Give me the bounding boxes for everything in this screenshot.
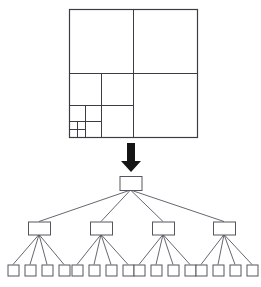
tree-node-level-2-14[interactable] bbox=[230, 265, 241, 276]
tree-node-level-2-3[interactable] bbox=[59, 265, 70, 276]
tree-node-level-2-13[interactable] bbox=[213, 265, 224, 276]
tree-node-level-2-8[interactable] bbox=[134, 265, 145, 276]
quad-cell-q-sw-sw-sw-sw bbox=[70, 130, 78, 138]
tree-edge-level-1-to-level-2-1 bbox=[30, 235, 39, 265]
tree-edge-level-0-to-level-1-0 bbox=[39, 190, 131, 222]
tree-edge-level-1-to-level-2-6 bbox=[101, 235, 111, 265]
tree-node-level-2-15[interactable] bbox=[247, 265, 258, 276]
tree-node-level-0-0[interactable] bbox=[120, 177, 142, 191]
tree-node-level-2-10[interactable] bbox=[168, 265, 179, 276]
tree-node-level-2-0[interactable] bbox=[8, 265, 19, 276]
tree-edge-level-1-to-level-2-0 bbox=[13, 235, 39, 265]
tree-node-level-2-5[interactable] bbox=[89, 265, 100, 276]
quad-cell-q-sw-se bbox=[102, 106, 134, 138]
quad-cell-q-nw bbox=[70, 10, 134, 74]
arrow-glyph bbox=[121, 143, 141, 172]
quad-cell-q-sw-sw-sw-se bbox=[78, 130, 86, 138]
quad-cell-q-sw-nw bbox=[70, 74, 102, 106]
tree-edge-level-1-to-level-2-7 bbox=[101, 235, 128, 265]
tree-node-level-1-2[interactable] bbox=[153, 222, 175, 235]
quadtree-figure bbox=[0, 0, 261, 287]
quad-cell-q-sw-sw-se bbox=[86, 122, 102, 138]
quad-cell-q-ne bbox=[134, 10, 198, 74]
tree-node-level-1-0[interactable] bbox=[29, 222, 51, 235]
quad-cell-q-sw-sw-nw bbox=[70, 106, 86, 122]
tree-edge-level-1-to-level-2-11 bbox=[163, 235, 190, 265]
tree-node-level-2-6[interactable] bbox=[106, 265, 117, 276]
quadtree-subdivision-group bbox=[70, 10, 198, 138]
quad-cell-q-sw-ne bbox=[102, 74, 134, 106]
quad-cell-q-sw-sw-sw-ne bbox=[78, 122, 86, 130]
tree-node-level-2-7[interactable] bbox=[123, 265, 134, 276]
tree-node-level-2-1[interactable] bbox=[25, 265, 36, 276]
tree-edge-level-0-to-level-1-2 bbox=[131, 190, 164, 222]
tree-node-level-2-2[interactable] bbox=[42, 265, 53, 276]
tree-node-level-2-4[interactable] bbox=[72, 265, 83, 276]
tree-nodes-group bbox=[8, 177, 258, 277]
quad-cell-q-se bbox=[134, 74, 198, 138]
tree-edge-level-1-to-level-2-15 bbox=[224, 235, 252, 265]
tree-edge-level-1-to-level-2-10 bbox=[163, 235, 173, 265]
tree-node-level-1-1[interactable] bbox=[91, 222, 113, 235]
tree-edge-level-1-to-level-2-14 bbox=[224, 235, 235, 265]
downward-arrow-group bbox=[121, 143, 141, 172]
quad-cell-q-sw-sw-sw-nw bbox=[70, 122, 78, 130]
tree-node-level-1-3[interactable] bbox=[214, 222, 236, 235]
tree-edge-level-0-to-level-1-3 bbox=[131, 190, 225, 222]
figure-canvas bbox=[0, 0, 261, 287]
tree-node-level-2-11[interactable] bbox=[185, 265, 196, 276]
tree-node-level-2-9[interactable] bbox=[151, 265, 162, 276]
tree-node-level-2-12[interactable] bbox=[196, 265, 207, 276]
quad-cell-q-sw-sw-ne bbox=[86, 106, 102, 122]
